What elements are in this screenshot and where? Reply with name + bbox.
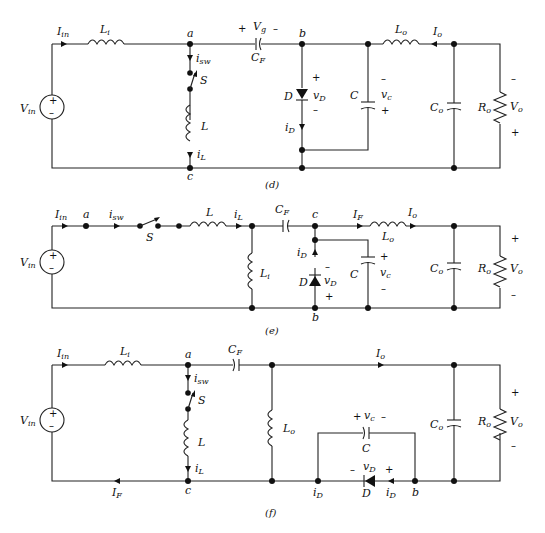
svg-text:Vg: Vg — [253, 20, 266, 34]
svg-text:–: – — [511, 73, 516, 84]
svg-text:+: + — [49, 408, 57, 419]
inductor-li — [88, 40, 124, 44]
svg-text:Li: Li — [259, 267, 270, 281]
svg-text:–: – — [325, 261, 330, 272]
svg-text:+: + — [511, 127, 519, 138]
svg-text:–: – — [49, 107, 54, 118]
svg-text:vD: vD — [313, 89, 326, 103]
circuit-f: + – Vin Iin Li a isw S L iL c IF CF — [20, 343, 523, 518]
svg-text:CF: CF — [228, 343, 242, 357]
svg-text:–: – — [381, 73, 386, 84]
svg-text:c: c — [312, 208, 318, 221]
svg-text:–: – — [350, 464, 355, 475]
circuit-diagrams: + – Vin Iin Li a isw S L iL c — [0, 0, 545, 533]
svg-text:–: – — [381, 411, 386, 422]
svg-text:Ro: Ro — [477, 415, 491, 429]
inductor-l — [184, 420, 188, 456]
svg-text:–: – — [49, 420, 54, 431]
capacitor-co — [447, 420, 461, 427]
svg-text:vc: vc — [364, 409, 375, 423]
svg-text:b: b — [412, 486, 419, 499]
inductor-l — [186, 105, 190, 141]
svg-text:Lo: Lo — [394, 23, 407, 37]
svg-text:c: c — [185, 484, 191, 497]
svg-text:+: + — [511, 387, 519, 398]
svg-text:Vin: Vin — [20, 414, 36, 428]
inductor-li — [248, 253, 252, 289]
caption-d: (d) — [265, 179, 279, 190]
svg-text:C: C — [362, 442, 371, 455]
svg-text:–: – — [313, 104, 318, 115]
svg-text:a: a — [185, 348, 192, 361]
svg-text:Li: Li — [99, 23, 110, 37]
diode-d — [296, 89, 308, 100]
svg-text:S: S — [198, 394, 206, 407]
svg-text:IF: IF — [111, 486, 122, 500]
svg-text:Li: Li — [119, 345, 130, 359]
capacitor-co — [447, 263, 461, 270]
svg-text:a: a — [83, 208, 90, 221]
caption-f: (f) — [265, 507, 277, 518]
capacitor-c — [361, 257, 375, 264]
diode-d — [309, 275, 321, 286]
svg-text:Co: Co — [430, 262, 443, 276]
switch-s — [187, 70, 197, 92]
svg-text:Lo: Lo — [282, 422, 295, 436]
switch-s — [185, 390, 195, 412]
voltage-source-vin: + – — [40, 408, 64, 432]
svg-text:a: a — [187, 27, 194, 40]
svg-text:L: L — [197, 436, 205, 449]
inductor-lo — [383, 40, 419, 44]
capacitor-cf — [233, 359, 239, 371]
svg-text:Vo: Vo — [510, 415, 523, 429]
svg-text:iL: iL — [234, 208, 243, 222]
inductor-lo — [268, 410, 272, 446]
svg-text:L: L — [205, 206, 213, 219]
svg-text:+: + — [353, 411, 361, 422]
svg-text:Iin: Iin — [54, 208, 67, 222]
svg-text:iL: iL — [197, 148, 206, 162]
svg-text:CF: CF — [251, 51, 265, 65]
svg-text:b: b — [299, 27, 306, 40]
svg-text:+: + — [381, 105, 389, 116]
svg-text:iD: iD — [297, 246, 308, 260]
svg-text:vD: vD — [363, 460, 376, 474]
inductor-lo — [370, 222, 406, 226]
svg-text:D: D — [298, 276, 308, 289]
svg-text:iD: iD — [285, 121, 296, 135]
capacitor-c — [361, 102, 375, 109]
svg-text:b: b — [312, 311, 319, 324]
svg-text:Io: Io — [432, 25, 442, 39]
voltage-source-vin: + – — [40, 250, 64, 274]
circuit-d: + – Vin Iin Li a isw S L iL c — [20, 20, 523, 190]
capacitor-cf — [256, 38, 261, 50]
svg-text:vc: vc — [380, 266, 391, 280]
svg-text:C: C — [350, 268, 359, 281]
svg-text:Io: Io — [407, 206, 417, 220]
label-iin: Iin — [56, 25, 69, 39]
svg-text:D: D — [361, 487, 371, 500]
svg-text:+: + — [49, 250, 57, 261]
caption-e: (e) — [265, 325, 279, 336]
capacitor-c — [363, 427, 369, 439]
svg-text:+: + — [511, 233, 519, 244]
svg-text:+: + — [312, 72, 320, 83]
svg-text:–: – — [273, 23, 278, 34]
svg-text:+: + — [238, 23, 246, 34]
svg-text:Ro: Ro — [477, 262, 491, 276]
svg-text:D: D — [283, 90, 293, 103]
svg-text:iD: iD — [386, 486, 397, 500]
svg-text:+: + — [380, 251, 388, 262]
svg-text:L: L — [200, 120, 208, 133]
svg-text:Vin: Vin — [20, 256, 36, 270]
svg-text:isw: isw — [196, 52, 211, 66]
resistor-ro — [494, 92, 506, 123]
svg-text:IF: IF — [352, 208, 363, 222]
capacitor-co — [447, 103, 461, 110]
svg-text:–: – — [511, 289, 516, 300]
inductor-li — [105, 361, 141, 365]
svg-text:isw: isw — [109, 208, 124, 222]
svg-text:S: S — [200, 74, 208, 87]
svg-text:+: + — [325, 291, 333, 302]
svg-text:–: – — [511, 440, 516, 451]
